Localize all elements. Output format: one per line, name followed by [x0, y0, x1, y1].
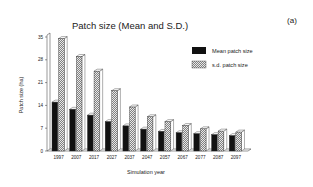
x-axis-label: Simulation year — [127, 169, 165, 175]
bar-sd — [130, 105, 139, 151]
y-tick-label: 21 — [38, 80, 44, 85]
x-tick-label: 2027 — [107, 155, 118, 160]
bar-sd — [183, 124, 192, 151]
bar-sd — [236, 130, 245, 151]
x-tick-label: 2047 — [142, 155, 153, 160]
bar-sd — [218, 129, 227, 151]
x-tick-label: 2057 — [160, 155, 171, 160]
x-tick-label: 2037 — [124, 155, 135, 160]
bar-sd — [147, 115, 156, 151]
chart-title: Patch size (Mean and S.D.) — [72, 20, 188, 31]
bar-sd — [112, 89, 121, 151]
bar-sd — [76, 55, 85, 151]
bar-sd — [200, 127, 209, 151]
y-tick-label: 14 — [38, 103, 44, 108]
x-tick-label: 2067 — [178, 155, 189, 160]
y-tick-label: 0 — [40, 149, 43, 154]
panel-label: (a) — [287, 16, 297, 25]
y-axis-label: Patch size (ha) — [18, 76, 24, 113]
legend: Mean patch size s.d. patch size — [192, 47, 253, 68]
y-tick-label: 28 — [38, 57, 44, 62]
legend-swatch-sd — [192, 61, 206, 68]
y-tick-label: 35 — [38, 35, 44, 40]
bar-sd — [59, 37, 68, 151]
legend-label-sd: s.d. patch size — [212, 62, 248, 68]
legend-label-mean: Mean patch size — [212, 48, 253, 54]
x-tick-label: 2017 — [89, 155, 100, 160]
x-tick-label: 1997 — [53, 155, 64, 160]
x-tick-label: 2087 — [213, 155, 224, 160]
x-tick-label: 2007 — [71, 155, 82, 160]
bar-sd — [165, 120, 174, 151]
legend-swatch-mean — [192, 47, 206, 54]
y-tick-label: 7 — [40, 126, 43, 131]
y-axis-wall — [47, 33, 50, 151]
patch-size-chart: Patch size (Mean and S.D.) (a) Patch siz… — [0, 0, 313, 187]
bar-sd — [94, 69, 103, 151]
x-tick-label: 2097 — [231, 155, 242, 160]
x-tick-label: 2077 — [195, 155, 206, 160]
